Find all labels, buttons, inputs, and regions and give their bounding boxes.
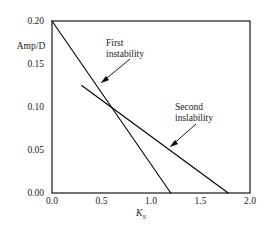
xtick-label-2: 1.0 — [136, 197, 166, 207]
x-axis-title-subscript: S — [142, 213, 146, 221]
annotation-first-line1: First — [106, 38, 144, 49]
ytick-label-3: 0.05 — [14, 146, 44, 156]
xtick-label-3: 1.5 — [186, 197, 216, 207]
y-axis-title: Amp/D — [9, 42, 53, 52]
annotation-second-line2: inslability — [175, 113, 213, 124]
annotation-first-line2: instability — [106, 49, 144, 60]
annotation-second-instability: Second inslability — [175, 102, 213, 124]
xtick-label-0: 0.0 — [37, 197, 67, 207]
ytick-label-0: 0.20 — [14, 17, 44, 27]
chart-figure: 0.20 0.15 0.10 0.05 0.00 0.0 0.5 1.0 1.5… — [0, 0, 276, 233]
annotation-arrow-first — [102, 59, 131, 83]
x-axis-title: KS — [121, 209, 161, 221]
xtick-label-1: 0.5 — [87, 197, 117, 207]
ytick-label-2: 0.10 — [14, 103, 44, 113]
xtick-label-4: 2.0 — [235, 197, 265, 207]
annotation-second-line1: Second — [175, 102, 213, 113]
ytick-label-1: 0.15 — [14, 60, 44, 70]
annotation-arrow-second — [171, 124, 197, 147]
annotation-first-instability: First instability — [106, 38, 144, 60]
plot-frame — [52, 21, 250, 193]
